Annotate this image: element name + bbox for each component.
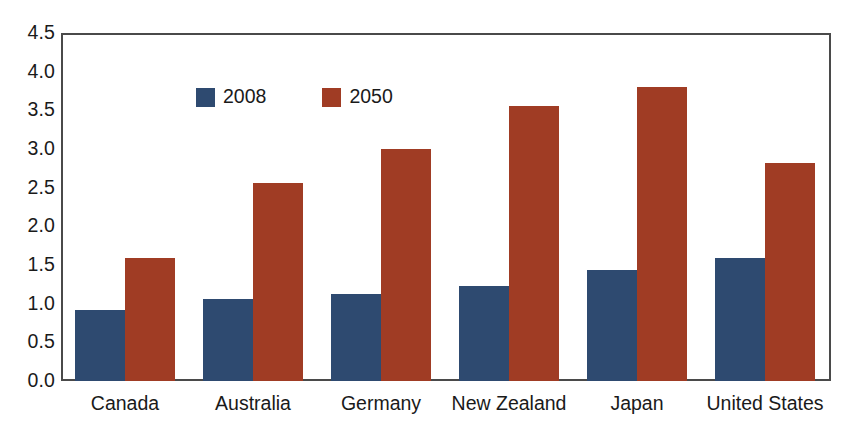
bar-2008-australia <box>203 299 253 381</box>
x-axis-tick-label: Australia <box>215 392 291 415</box>
x-axis-tick-label: New Zealand <box>452 392 567 415</box>
y-axis-tick-label: 4.0 <box>0 62 55 82</box>
bar-2008-united-states <box>715 258 765 381</box>
bar-2050-united-states <box>765 163 815 381</box>
bar-2050-germany <box>381 149 431 381</box>
y-axis-tick-label: 3.0 <box>0 139 55 159</box>
legend-swatch-icon <box>196 88 215 107</box>
bar-group <box>587 33 687 381</box>
bar-2050-canada <box>125 258 175 381</box>
plot-area <box>61 33 831 381</box>
bar-2008-new-zealand <box>459 286 509 381</box>
legend-entry-2008: 2008 <box>196 87 266 107</box>
y-axis-tick-label: 0.0 <box>0 371 55 391</box>
y-axis-tick-label: 4.5 <box>0 23 55 43</box>
chart-legend: 20082050 <box>196 85 393 109</box>
y-axis-tick-label: 0.5 <box>0 333 55 353</box>
bar-2008-canada <box>75 310 125 381</box>
bar-2050-new-zealand <box>509 106 559 381</box>
bar-chart-figure: 4.54.03.53.02.52.01.51.00.50.0 20082050 … <box>0 0 844 432</box>
legend-swatch-icon <box>322 88 341 107</box>
bar-group <box>459 33 559 381</box>
bar-2008-germany <box>331 294 381 381</box>
bar-group <box>75 33 175 381</box>
bar-group <box>715 33 815 381</box>
y-axis-tick-label: 2.0 <box>0 217 55 237</box>
legend-label: 2050 <box>349 87 392 107</box>
legend-label: 2008 <box>223 87 266 107</box>
x-axis-tick-label: Germany <box>341 392 421 415</box>
legend-entry-2050: 2050 <box>322 87 392 107</box>
bar-2008-japan <box>587 270 637 381</box>
x-axis: CanadaAustraliaGermanyNew ZealandJapanUn… <box>61 392 831 422</box>
x-axis-tick-label: Japan <box>610 392 663 415</box>
y-axis: 4.54.03.53.02.52.01.51.00.50.0 <box>0 0 55 432</box>
y-axis-tick-label: 2.5 <box>0 178 55 198</box>
x-axis-tick-label: Canada <box>91 392 159 415</box>
bar-2050-australia <box>253 183 303 381</box>
y-axis-tick-label: 3.5 <box>0 101 55 121</box>
x-axis-tick-label: United States <box>706 392 823 415</box>
y-axis-tick-label: 1.5 <box>0 255 55 275</box>
y-axis-tick-label: 1.0 <box>0 294 55 314</box>
bar-2050-japan <box>637 87 687 381</box>
